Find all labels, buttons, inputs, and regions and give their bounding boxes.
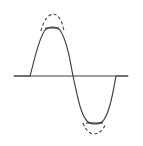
waveform-diagram	[0, 0, 143, 146]
original-negative-trough-dashed	[83, 123, 106, 134]
waveform-figure	[0, 0, 143, 146]
